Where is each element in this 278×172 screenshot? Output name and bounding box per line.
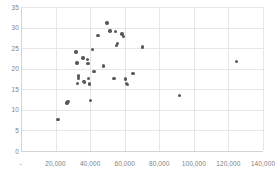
x-axis-tick-labels: -20,00040,00060,00080,000100,000120,0001…: [0, 160, 278, 170]
data-point: [77, 77, 80, 80]
gridline-x-4: [159, 7, 160, 151]
data-point: [108, 29, 111, 32]
plot-area: [21, 7, 263, 151]
data-point: [102, 64, 105, 67]
data-point: [112, 77, 115, 80]
x-tick-label: 140,000: [251, 160, 275, 167]
y-tick-label: 20: [1, 65, 19, 72]
data-point: [88, 82, 91, 85]
x-tick-label: 80,000: [149, 160, 169, 167]
x-tick-label: 40,000: [80, 160, 100, 167]
data-point: [124, 77, 127, 80]
data-point: [92, 70, 95, 73]
data-point: [89, 99, 92, 102]
data-point: [96, 34, 99, 37]
y-axis-tick-labels: 05101520253035: [0, 0, 19, 172]
x-tick-label: -: [20, 160, 22, 167]
x-tick-label: 20,000: [45, 160, 65, 167]
data-point: [141, 45, 144, 48]
data-point: [74, 50, 77, 53]
data-point: [91, 48, 94, 51]
data-point: [114, 30, 117, 33]
data-point: [83, 80, 86, 83]
gridline-y-3: [21, 89, 263, 90]
data-point: [235, 60, 238, 63]
data-point: [81, 56, 84, 59]
gridline-y-1: [21, 130, 263, 131]
y-tick-label: 15: [1, 86, 19, 93]
data-point: [126, 83, 129, 86]
y-tick-label: 30: [1, 24, 19, 31]
gridline-y-6: [21, 28, 263, 29]
y-tick-label: 5: [1, 127, 19, 134]
gridline-y-7: [21, 7, 263, 8]
x-tick-label: 100,000: [182, 160, 206, 167]
y-tick-label: 35: [1, 4, 19, 11]
data-point: [178, 94, 181, 97]
data-point: [75, 61, 78, 64]
gridline-y-2: [21, 110, 263, 111]
gridline-x-1: [56, 7, 57, 151]
gridline-x-6: [228, 7, 229, 151]
y-axis-line: [21, 7, 22, 151]
gridline-x-7: [263, 7, 264, 151]
y-tick-label: 0: [1, 148, 19, 155]
data-point: [66, 100, 69, 103]
data-point: [76, 82, 79, 85]
data-point: [122, 35, 125, 38]
y-tick-label: 10: [1, 106, 19, 113]
scatter-chart: 05101520253035 -20,00040,00060,00080,000…: [0, 0, 278, 172]
data-point: [131, 72, 134, 75]
x-tick-label: 60,000: [114, 160, 134, 167]
y-tick-label: 25: [1, 45, 19, 52]
data-point: [56, 118, 59, 121]
x-axis-line: [21, 151, 263, 152]
data-point: [116, 42, 119, 45]
gridline-x-2: [90, 7, 91, 151]
x-tick-label: 120,000: [216, 160, 240, 167]
gridline-y-4: [21, 69, 263, 70]
gridline-x-5: [194, 7, 195, 151]
data-point: [105, 21, 108, 24]
data-point: [86, 58, 89, 61]
